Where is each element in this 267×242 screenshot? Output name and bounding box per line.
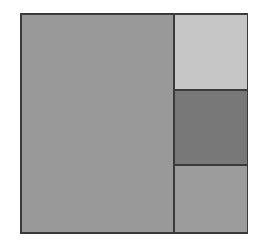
treemap-tile-block-b[interactable]: Block B xyxy=(175,15,247,89)
treemap-divider-right-upper xyxy=(175,89,247,91)
treemap-divider-right-lower xyxy=(175,164,247,166)
treemap-diagram: Block A Block B Block C Block D xyxy=(0,0,267,242)
treemap-divider-vertical xyxy=(173,15,175,232)
treemap-tile-block-d[interactable]: Block D xyxy=(175,166,247,232)
treemap-tile-block-a[interactable]: Block A xyxy=(22,15,173,232)
treemap-tile-block-c[interactable]: Block C xyxy=(175,91,247,164)
